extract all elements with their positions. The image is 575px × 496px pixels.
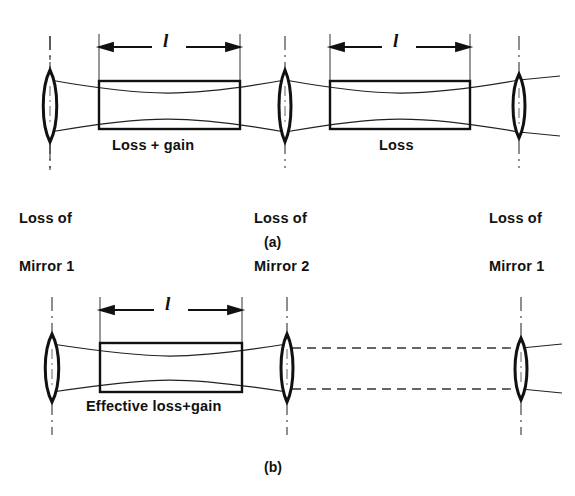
mirror-label-right: Loss of Mirror 1 <box>489 178 545 306</box>
beam-stub-b-lower <box>521 389 562 393</box>
lens-outline-b-right <box>515 338 527 400</box>
dimension-arrow-a2 <box>330 43 470 51</box>
beam-lower-b1 <box>52 380 287 392</box>
beam-envelope-a-segment2 <box>285 80 519 132</box>
lens-outline-b-middle <box>281 334 293 402</box>
mirror-label-middle: Loss of Mirror 2 <box>254 178 310 306</box>
mirror-label-middle-line1: Loss of <box>254 210 310 226</box>
medium-box-effective-loss-gain <box>100 343 242 392</box>
mirror-label-middle-line2: Mirror 2 <box>254 258 310 274</box>
mirror-label-left: Loss of Mirror 1 <box>19 178 75 306</box>
dim-a1-right-arrowhead <box>226 43 240 51</box>
medium-label-loss-gain: Loss + gain <box>112 138 194 153</box>
figure-canvas: l l Loss + gain Loss Loss of Mirror 1 Lo… <box>0 0 575 496</box>
dimension-label-a2: l <box>393 30 398 52</box>
mirror-label-right-line1: Loss of <box>489 210 545 226</box>
medium-label-effective-loss-gain: Effective loss+gain <box>86 399 222 414</box>
panel-caption-b: (b) <box>264 459 282 475</box>
lens-mirror1-right <box>513 74 525 138</box>
mirror-label-right-line2: Mirror 1 <box>489 258 545 274</box>
lens-mirror1-left <box>43 70 57 142</box>
lens-b-left <box>45 334 59 402</box>
dimension-arrow-b <box>100 306 242 314</box>
lens-b-right <box>515 338 527 400</box>
beam-envelope-a-segment1 <box>50 80 285 132</box>
beam-upper-b1 <box>52 344 287 356</box>
panel-b-dimension-extension-lines <box>100 297 242 342</box>
lens-b-middle <box>281 334 293 402</box>
dim-b-right-arrowhead <box>228 306 242 314</box>
lens-outline-b-left <box>45 334 59 402</box>
dimension-arrow-a1 <box>99 43 240 51</box>
dimension-label-b: l <box>165 293 170 315</box>
beam-stub-a-upper <box>519 76 560 80</box>
mirror-label-left-line2: Mirror 1 <box>19 258 75 274</box>
beam-stub-b-upper <box>521 344 562 348</box>
panel-b <box>45 297 562 435</box>
dashed-rays-b <box>292 348 516 389</box>
beam-stub-a-lower <box>519 132 560 136</box>
beam-envelope-b-segment1 <box>52 344 287 392</box>
lens-outline-mirror1-right <box>513 74 525 138</box>
dimension-label-a1: l <box>163 30 168 52</box>
dim-a2-left-arrowhead <box>330 43 344 51</box>
dim-a1-left-arrowhead <box>99 43 113 51</box>
medium-label-loss: Loss <box>379 138 414 153</box>
dim-b-left-arrowhead <box>100 306 114 314</box>
panel-caption-a: (a) <box>264 234 281 250</box>
dim-a2-right-arrowhead <box>456 43 470 51</box>
lens-mirror2-middle <box>279 70 291 142</box>
mirror-label-left-line1: Loss of <box>19 210 75 226</box>
